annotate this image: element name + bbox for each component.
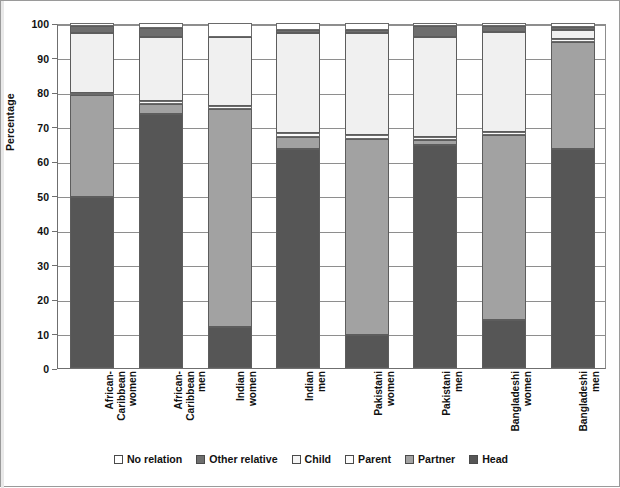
- y-tick-label: 0: [43, 363, 49, 375]
- bar-segment-other-relative: [482, 26, 526, 31]
- legend-label: Head: [482, 453, 508, 465]
- bar-stack: [345, 23, 389, 368]
- x-tick-label: African- Caribbean men: [173, 371, 208, 447]
- bar-segment-child: [482, 32, 526, 132]
- bar-segment-parent: [482, 132, 526, 135]
- legend-label: Other relative: [209, 453, 277, 465]
- bar-segment-no-relation: [551, 23, 595, 27]
- legend-item[interactable]: Parent: [345, 453, 391, 465]
- bar-segment-no-relation: [482, 23, 526, 26]
- bar-segment-partner: [551, 42, 595, 149]
- bar-segment-partner: [70, 95, 114, 197]
- bar-segment-head: [551, 149, 595, 368]
- bar-segment-head: [70, 197, 114, 368]
- bar-segment-no-relation: [345, 23, 389, 30]
- bar-segment-parent: [413, 137, 457, 140]
- bar-segment-no-relation: [276, 23, 320, 30]
- bar-segment-other-relative: [139, 28, 183, 37]
- bar-segment-child: [551, 30, 595, 39]
- y-tick-label: 90: [37, 53, 49, 65]
- bar-segment-head: [208, 327, 252, 368]
- legend-item[interactable]: Partner: [405, 453, 455, 465]
- x-tick-label: Pakistani women: [373, 371, 396, 447]
- x-tick-label: Pakistani men: [441, 371, 464, 447]
- y-tick-label: 60: [37, 156, 49, 168]
- bar-segment-parent: [70, 93, 114, 96]
- legend-item[interactable]: No relation: [114, 453, 182, 465]
- bar-segment-parent: [345, 135, 389, 138]
- bar-segment-other-relative: [413, 26, 457, 36]
- bar-stack: [208, 23, 252, 368]
- bar-segment-no-relation: [139, 23, 183, 28]
- legend-swatch-icon: [292, 455, 301, 464]
- x-tick-label: Indian men: [304, 371, 327, 447]
- y-tick-label: 20: [37, 294, 49, 306]
- bar-stack: [70, 23, 114, 368]
- chart-legend: No relationOther relativeChildParentPart…: [1, 453, 620, 465]
- bar-segment-head: [276, 149, 320, 368]
- bar-segment-other-relative: [70, 26, 114, 33]
- x-tick-label: Bangladeshi men: [578, 371, 601, 447]
- bar-segment-parent: [551, 39, 595, 42]
- bar-segment-parent: [276, 133, 320, 136]
- legend-item[interactable]: Head: [469, 453, 508, 465]
- bar-segment-parent: [139, 101, 183, 104]
- x-tick-label: African- Caribbean women: [104, 371, 139, 447]
- bar-stack: [413, 23, 457, 368]
- legend-swatch-icon: [114, 455, 123, 464]
- x-axis-labels: African- Caribbean womenAfrican- Caribbe…: [57, 371, 606, 449]
- y-axis-ticks: 0102030405060708090100: [1, 24, 57, 369]
- y-tick-label: 80: [37, 87, 49, 99]
- legend-item[interactable]: Other relative: [196, 453, 277, 465]
- legend-swatch-icon: [345, 455, 354, 464]
- bar-segment-other-relative: [276, 30, 320, 33]
- bar-segment-no-relation: [70, 23, 114, 26]
- bar-segment-partner: [276, 137, 320, 149]
- bar-segment-partner: [139, 104, 183, 114]
- bar-segment-partner: [345, 139, 389, 336]
- bar-stack: [276, 23, 320, 368]
- bar-stack: [551, 23, 595, 368]
- x-tick-label: Indian women: [235, 371, 258, 447]
- bar-segment-partner: [413, 140, 457, 145]
- bar-segment-other-relative: [345, 30, 389, 33]
- plot-area: [57, 24, 606, 369]
- bar-segment-child: [276, 33, 320, 133]
- bar-segment-child: [345, 33, 389, 135]
- bar-segment-head: [413, 145, 457, 368]
- bar-segment-partner: [482, 135, 526, 320]
- bar-segment-child: [139, 37, 183, 101]
- bar-segment-other-relative: [551, 27, 595, 30]
- legend-label: No relation: [127, 453, 182, 465]
- bar-segment-child: [208, 37, 252, 106]
- bar-segment-partner: [208, 109, 252, 326]
- legend-label: Partner: [418, 453, 455, 465]
- bar-stack: [482, 23, 526, 368]
- y-tick-label: 100: [31, 18, 49, 30]
- bar-segment-head: [482, 320, 526, 368]
- legend-label: Child: [305, 453, 331, 465]
- legend-swatch-icon: [405, 455, 414, 464]
- legend-swatch-icon: [196, 455, 205, 464]
- y-tick-label: 70: [37, 122, 49, 134]
- y-tick-label: 40: [37, 225, 49, 237]
- y-tick-label: 10: [37, 329, 49, 341]
- bar-segment-parent: [208, 106, 252, 109]
- legend-label: Parent: [358, 453, 391, 465]
- x-tick-label: Bangladeshi women: [510, 371, 533, 447]
- y-tick-label: 50: [37, 191, 49, 203]
- bar-stack: [139, 23, 183, 368]
- bar-segment-no-relation: [413, 23, 457, 26]
- bar-segment-no-relation: [208, 23, 252, 37]
- bar-segment-head: [139, 114, 183, 368]
- legend-item[interactable]: Child: [292, 453, 331, 465]
- bar-segment-child: [413, 37, 457, 137]
- bar-segment-head: [345, 335, 389, 368]
- y-tick-label: 30: [37, 260, 49, 272]
- legend-swatch-icon: [469, 455, 478, 464]
- bar-segment-child: [70, 33, 114, 92]
